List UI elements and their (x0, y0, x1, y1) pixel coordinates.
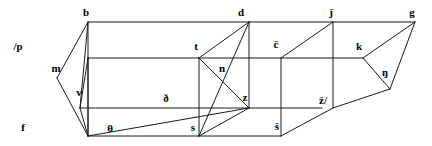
vertex-label-p: /p (13, 41, 22, 52)
diagram-edge-k-g (363, 22, 415, 58)
vertex-label-d: d (238, 7, 244, 18)
vertex-label-cc: č (274, 39, 279, 50)
vertex-label-k: k (356, 41, 362, 52)
vertex-label-v: v (76, 87, 82, 98)
vertex-label-t: t (194, 41, 198, 52)
vertex-label-n: n (219, 63, 225, 74)
vertex-label-b: b (83, 7, 89, 18)
vertex-label-g: g (409, 7, 415, 18)
vertex-label-th: θ (107, 123, 113, 134)
consonant-diagram-figure: /pbfmvθðtdsnzčšž/ǰkgŋ (0, 0, 432, 146)
vertex-label-z: z (243, 92, 248, 103)
vertex-label-jj: ǰ (329, 7, 333, 18)
diagram-edge-g-ng (390, 22, 415, 89)
vertex-label-dh: ð (163, 93, 169, 104)
vertex-label-zz: ž/ (319, 95, 327, 106)
diagram-edge-f-v (80, 108, 88, 136)
vertex-label-f: f (21, 122, 25, 133)
diagram-edge-zz-ng (333, 89, 390, 108)
diagram-edge-ss-zz (281, 108, 333, 136)
diagram-edge-d-s (199, 22, 249, 136)
vertex-label-ng: ŋ (382, 67, 388, 78)
vertex-label-m: m (51, 63, 60, 74)
vertex-label-ss: š (275, 121, 279, 132)
diagram-edge-layer (0, 0, 432, 146)
diagram-edge-cc-jj (281, 22, 333, 58)
vertex-label-s: s (191, 122, 195, 133)
